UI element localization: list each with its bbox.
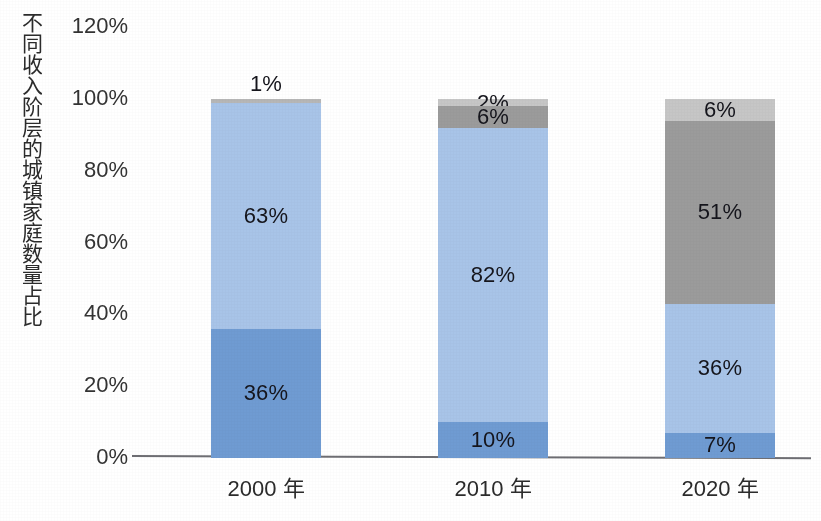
bar-segment-label: 36% xyxy=(698,355,743,381)
bar-segment[interactable]: 51% xyxy=(665,121,775,304)
bar-segment[interactable]: 10% xyxy=(438,422,548,458)
plot-area: 1%63%36%2%6%82%10%6%51%36%7% 2000 年2010 … xyxy=(132,0,814,521)
bar-segment-label: 36% xyxy=(244,380,289,406)
y-axis-tick: 60% xyxy=(36,229,128,255)
y-axis-tick: 120% xyxy=(36,13,128,39)
y-axis-tick: 0% xyxy=(36,444,128,470)
bar-segment-label: 7% xyxy=(704,432,736,458)
bar-segment[interactable]: 6% xyxy=(438,106,548,128)
bar-segment[interactable]: 2% xyxy=(438,99,548,106)
y-axis-tick: 40% xyxy=(36,300,128,326)
bar-segment[interactable]: 63% xyxy=(211,103,321,329)
bar-segment[interactable]: 36% xyxy=(211,329,321,458)
bar-stack: 6%51%36%7% xyxy=(665,99,775,458)
bar-stack: 2%6%82%10% xyxy=(438,99,548,458)
y-axis-tick: 80% xyxy=(36,157,128,183)
bar-segment[interactable]: 6% xyxy=(665,99,775,121)
x-axis-tick: 2020 年 xyxy=(630,470,810,502)
bar-segment-label: 6% xyxy=(477,104,509,130)
x-axis-tick: 2000 年 xyxy=(176,470,356,502)
bar-segment-label: 82% xyxy=(471,262,516,288)
bar-segment[interactable]: 36% xyxy=(665,304,775,433)
bar-segment-label: 1% xyxy=(211,71,321,97)
bar-segment[interactable]: 7% xyxy=(665,433,775,458)
bar-segment-label: 63% xyxy=(244,203,289,229)
bar-segment-label: 6% xyxy=(704,97,736,123)
bar-stack: 1%63%36% xyxy=(211,99,321,458)
y-axis-tick-labels: 120%100%80%60%40%20%0% xyxy=(30,0,128,521)
y-axis-tick: 100% xyxy=(36,85,128,111)
stacked-bar-chart: 不同收入阶层的城镇家庭数量占比 120%100%80%60%40%20%0% 1… xyxy=(0,0,821,521)
x-axis-tick: 2010 年 xyxy=(403,470,583,502)
y-axis-tick: 20% xyxy=(36,372,128,398)
bar-segment-label: 10% xyxy=(471,427,516,453)
bar-segment-label: 51% xyxy=(698,199,743,225)
bar-segment[interactable]: 82% xyxy=(438,128,548,422)
